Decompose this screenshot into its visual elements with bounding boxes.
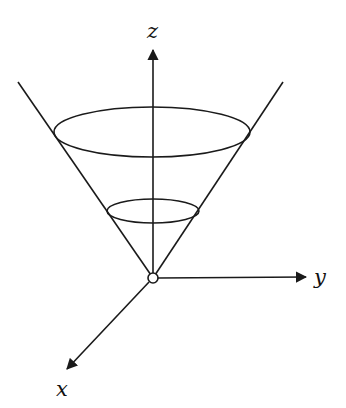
x-axis-label: x [56,377,68,401]
z-axis-label: z [146,19,159,43]
upper-cross-section [54,107,250,157]
origin-marker [148,273,158,283]
x-axis [67,282,149,369]
y-axis-label: y [313,265,327,289]
cone-diagram: z y x [0,0,346,408]
y-axis [158,277,306,278]
cone-left-edge [18,82,153,278]
cone-right-edge [153,82,283,278]
